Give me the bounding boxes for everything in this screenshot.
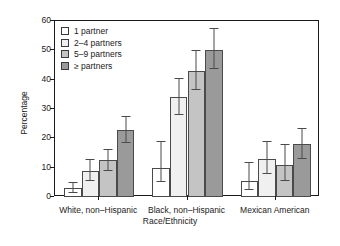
legend-item: 1 partner (61, 27, 122, 36)
error-bar-cap-bottom (209, 68, 218, 69)
error-bar-stem (196, 50, 197, 90)
legend-swatch-1-partner (61, 27, 69, 35)
y-tick-label: 0 (27, 192, 51, 201)
x-axis-title: Race/Ethnicity (0, 216, 340, 226)
x-group-label: White, non–Hispanic (59, 205, 137, 215)
x-group-label: Mexican American (240, 205, 309, 215)
error-bar-cap-top (157, 141, 166, 142)
error-bar-cap-bottom (263, 173, 272, 174)
legend-swatch-2-4-partners (61, 39, 69, 47)
error-bar-stem (284, 144, 285, 181)
error-bar-cap-bottom (121, 142, 130, 143)
error-bar-stem (125, 116, 126, 142)
error-bar (64, 182, 82, 192)
error-bar-cap-bottom (192, 89, 201, 90)
error-bar (293, 128, 311, 159)
error-bar (170, 78, 188, 115)
error-bar-cap-bottom (280, 180, 289, 181)
legend: 1 partner2–4 partners5–9 partners≥ partn… (61, 27, 122, 70)
legend-item-label: 1 partner (74, 27, 108, 36)
error-bar (152, 141, 170, 182)
error-bar (258, 141, 276, 173)
legend-swatch-10-plus-partners (61, 62, 69, 70)
error-bar-stem (107, 149, 108, 171)
error-bar-cap-top (103, 149, 112, 150)
error-bar-cap-top (192, 50, 201, 51)
y-tick-label: 50 (27, 45, 51, 54)
error-bar-cap-bottom (245, 189, 254, 190)
error-bar-stem (178, 78, 179, 115)
legend-item: ≥ partners (61, 62, 122, 71)
error-bar-stem (90, 159, 91, 181)
y-tick-label: 30 (27, 104, 51, 113)
error-bar-cap-bottom (298, 158, 307, 159)
y-tick-label: 10 (27, 162, 51, 171)
error-bar-cap-bottom (103, 170, 112, 171)
legend-item-label: ≥ partners (74, 62, 112, 71)
error-bar-cap-top (174, 78, 183, 79)
error-bar (205, 28, 223, 69)
error-bar-cap-top (86, 159, 95, 160)
error-bar-stem (161, 141, 162, 182)
x-tick-mark (187, 196, 188, 200)
error-bar-cap-bottom (174, 114, 183, 115)
error-bar-cap-top (209, 28, 218, 29)
y-tick-label: 40 (27, 74, 51, 83)
error-bar (188, 50, 206, 90)
error-bar-stem (267, 141, 268, 173)
error-bar-cap-top (121, 116, 130, 117)
legend-item: 5–9 partners (61, 50, 122, 59)
error-bar-cap-bottom (86, 180, 95, 181)
error-bar-cap-top (298, 128, 307, 129)
error-bar (117, 116, 135, 142)
y-tick-mark (50, 196, 54, 197)
error-bar-cap-top (263, 141, 272, 142)
legend-swatch-5-9-partners (61, 50, 69, 58)
error-bar (241, 162, 259, 190)
y-tick-label: 20 (27, 133, 51, 142)
error-bar-cap-top (68, 182, 77, 183)
error-bar-cap-bottom (68, 192, 77, 193)
error-bar-cap-top (245, 162, 254, 163)
x-group-label: Black, non–Hispanic (148, 205, 225, 215)
error-bar-cap-top (280, 144, 289, 145)
bar-chart: Percentage 0102030405060 § White, non–Hi… (0, 0, 340, 246)
error-bar-stem (302, 128, 303, 159)
x-tick-mark (98, 196, 99, 200)
error-bar (99, 149, 117, 171)
error-bar-stem (213, 28, 214, 69)
error-bar (82, 159, 100, 181)
legend-item: 2–4 partners (61, 39, 122, 48)
legend-item-label: 5–9 partners (74, 50, 122, 59)
bar (205, 50, 223, 197)
error-bar-cap-bottom (157, 181, 166, 182)
x-tick-mark (275, 196, 276, 200)
y-tick-label: 60 (27, 16, 51, 25)
error-bar-stem (249, 162, 250, 190)
legend-item-label: 2–4 partners (74, 39, 122, 48)
error-bar (276, 144, 294, 181)
